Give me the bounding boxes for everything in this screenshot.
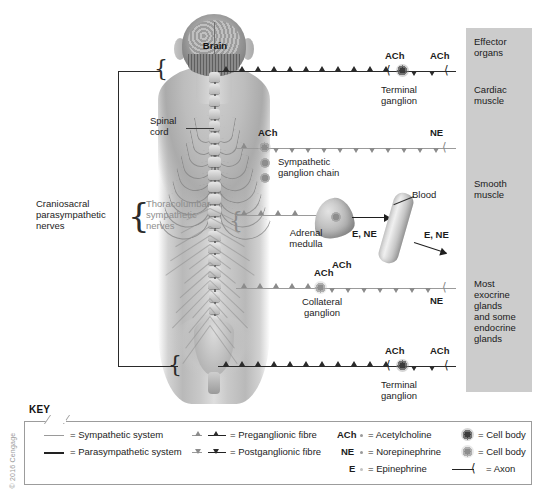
key-icon-axon: ⟨ (471, 462, 476, 474)
key-label-epinephrine: = Epinephrine (368, 463, 427, 474)
postganglionic-fibre-marker (401, 148, 407, 153)
preganglionic-fibre-marker (271, 66, 277, 71)
vertebra (209, 72, 220, 82)
preganglionic-fibre-marker (257, 283, 263, 288)
key-dot-ne (360, 451, 363, 454)
effector-axon-terminal-chain: ⟨ (442, 141, 447, 153)
preganglionic-fibre-marker (239, 66, 245, 71)
spinal-cord-label: Spinal cord (150, 115, 194, 137)
preganglionic-fibre-marker (351, 361, 357, 366)
terminal-ganglion-cellbody-bottom (396, 359, 409, 372)
postganglionic-fibre-marker (369, 148, 375, 153)
diagram-canvas: Brain Spinal cord Craniosacral parasympa… (0, 0, 559, 503)
preganglionic-fibre-marker (367, 361, 373, 366)
preganglionic-fibre-marker (271, 361, 277, 366)
key-label-parasympathetic-system: = Parasympathetic system (70, 446, 182, 457)
postganglionic-fibre-marker (429, 71, 435, 76)
key-label-sympathetic-system: = Sympathetic system (70, 429, 163, 440)
key-dot-e (360, 468, 363, 471)
key-label-cell-body-light: = Cell body (478, 446, 526, 457)
key-label-preganglionic-fibre: = Preganglionic fibre (230, 429, 317, 440)
preganglionic-fibre-marker (367, 66, 373, 71)
postganglionic-fibre-marker (411, 71, 417, 76)
preganglionic-fibre-marker (303, 66, 309, 71)
preganglionic-fibre-marker (303, 361, 309, 366)
postganglionic-fibre-marker (337, 148, 343, 153)
preganglionic-fibre-marker (351, 66, 357, 71)
postganglionic-fibre-marker (305, 148, 311, 153)
brain-label: Brain (195, 40, 235, 51)
vertebra (208, 182, 220, 192)
preganglionic-fibre-marker (287, 66, 293, 71)
preganglionic-fibre-marker (319, 66, 325, 71)
collateral-ganglion-label: Collateral ganglion (290, 296, 354, 318)
postganglionic-fibre-marker (433, 148, 439, 153)
ne-label-sympathetic-chain: NE (430, 127, 443, 138)
effector-organs-heading: Effector organs (474, 36, 530, 58)
key-postganglionic-icon (213, 449, 219, 454)
ach-label-adrenal: ACh (332, 259, 352, 270)
collateral-ganglion-cellbody (314, 281, 327, 294)
key-swatch-sympathetic (44, 435, 64, 436)
preganglionic-fibre-marker (255, 361, 261, 366)
thoracolumbar-sympathetic-label: Thoracolumbar sympathetic nerves (146, 198, 232, 231)
exocrine-endocrine-glands-label: Most exocrine glands and some endocrine … (474, 278, 534, 344)
coccyx (208, 372, 220, 394)
key-dot-ach (360, 434, 363, 437)
ach-label-collateral: ACh (314, 267, 334, 278)
preganglionic-fibre-marker (289, 283, 295, 288)
key-label-norepinephrine: = Norepinephrine (368, 446, 441, 457)
key-label-axon: = Axon (486, 463, 515, 474)
sacral-outflow-bracket: { (168, 348, 182, 382)
e-ne-label-to-blood: E, NE (352, 228, 377, 239)
preganglionic-fibre-marker (223, 361, 229, 366)
effector-axon-terminal-top: ⟨ (444, 64, 449, 76)
effector-axon-terminal-bottom: ⟨ (444, 359, 449, 371)
key-label-cell-body-dark: = Cell body (478, 429, 526, 440)
spinal-cord-leader-line (186, 128, 214, 129)
postganglionic-fibre-marker (353, 148, 359, 153)
e-ne-label-to-target: E, NE (424, 229, 449, 240)
postganglionic-fibre-marker (345, 288, 351, 293)
preganglionic-fibre-marker (273, 283, 279, 288)
terminal-ganglion-label-top: Terminal ganglion (366, 84, 432, 106)
preganglionic-fibre-marker (241, 283, 247, 288)
effector-axon-terminal-collateral: ⟨ (442, 281, 447, 293)
sympathetic-ganglion-cellbody-2 (260, 158, 270, 168)
postganglionic-fibre-marker (417, 148, 423, 153)
key-abbr-e: E (349, 463, 355, 474)
vertebra (209, 145, 221, 155)
preganglionic-fibre-marker (305, 283, 311, 288)
vertebra (209, 121, 221, 131)
postganglionic-fibre-marker (409, 288, 415, 293)
ach-label-pre-bottom: ACh (385, 345, 405, 356)
preganglionic-fibre-marker (241, 210, 247, 215)
vertebra (209, 96, 220, 106)
pathway-adrenal-line (236, 215, 318, 216)
key-icon-cell-body-dark (461, 428, 474, 441)
adrenal-chromaffin-cellbody (331, 212, 341, 222)
terminal-ganglion-label-bottom: Terminal ganglion (366, 379, 432, 401)
postganglionic-fibre-marker (321, 148, 327, 153)
key-preganglionic-gray-triangle (195, 431, 201, 436)
effector-organs-column: Effector organs Cardiac muscle Smooth mu… (466, 28, 532, 392)
preganglionic-fibre-marker (287, 361, 293, 366)
vertebra (209, 109, 220, 119)
key-label-postganglionic-fibre: = Postganglionic fibre (230, 446, 321, 457)
vertebra (209, 84, 220, 94)
key-abbr-ach: ACh (337, 429, 357, 440)
preganglionic-fibre-marker (258, 210, 264, 215)
adrenal-medulla-label: Adrenal medulla (278, 227, 334, 249)
blood-label: Blood (412, 189, 436, 200)
sympathetic-ganglion-cellbody-1 (258, 141, 271, 154)
key-tab-mask (50, 420, 66, 423)
postganglionic-fibre-marker (329, 288, 335, 293)
copyright-notice: © 2016 Cengage (9, 423, 16, 489)
cardiac-muscle-label: Cardiac muscle (474, 84, 530, 106)
preganglionic-fibre-marker (223, 66, 229, 71)
preganglionic-fibre-marker (383, 361, 389, 366)
preganglionic-fibre-marker (335, 361, 341, 366)
postganglionic-fibre-marker (273, 148, 279, 153)
postganglionic-fibre-marker (393, 288, 399, 293)
key-title: KEY (29, 404, 50, 415)
